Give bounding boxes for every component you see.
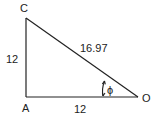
angle-label-phi: ϕ (107, 84, 113, 96)
side-label-CO: 16.97 (80, 42, 108, 54)
vertex-label-A: A (22, 102, 30, 114)
vertex-label-O: O (142, 92, 151, 104)
right-triangle-diagram: C A O 12 12 16.97 ϕ (0, 0, 156, 122)
side-label-AO: 12 (74, 103, 86, 115)
side-CO (26, 18, 138, 97)
vertex-label-C: C (20, 2, 28, 14)
side-label-CA: 12 (6, 53, 18, 65)
angle-arc-icon (102, 81, 105, 96)
triangle (26, 18, 138, 97)
